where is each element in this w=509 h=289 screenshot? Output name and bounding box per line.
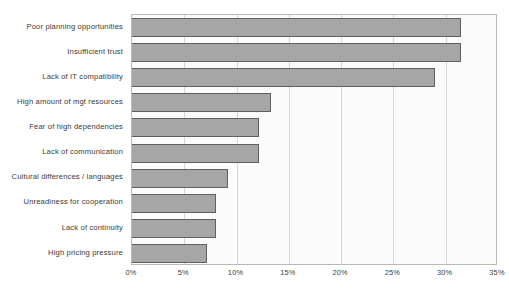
category-label: Lack of IT compatibility bbox=[42, 73, 123, 81]
category-label-row: High amount of mgt resources bbox=[0, 89, 128, 114]
bar bbox=[131, 43, 461, 62]
bar-slot bbox=[132, 216, 496, 241]
category-label: Lack of communication bbox=[42, 148, 123, 156]
category-label-row: Unreadiness for cooperation bbox=[0, 190, 128, 215]
category-label-row: Lack of communication bbox=[0, 139, 128, 164]
category-label: High pricing pressure bbox=[48, 249, 123, 257]
x-tick-label: 15% bbox=[280, 268, 295, 277]
bar-slot bbox=[132, 65, 496, 90]
category-label: Fear of high dependencies bbox=[29, 123, 123, 131]
bar bbox=[131, 118, 259, 137]
bar-slot bbox=[132, 40, 496, 65]
x-tick-label: 20% bbox=[332, 268, 347, 277]
x-tick-label: 35% bbox=[489, 268, 504, 277]
bar bbox=[131, 194, 216, 213]
bar-slot bbox=[132, 241, 496, 265]
bar bbox=[131, 244, 207, 263]
category-label: Lack of continuity bbox=[62, 224, 123, 232]
bar-slot bbox=[132, 90, 496, 115]
x-axis-tick-labels: 0%5%10%15%20%25%30%35% bbox=[131, 268, 497, 286]
category-label-row: Cultural differences / languages bbox=[0, 165, 128, 190]
bar-slot bbox=[132, 166, 496, 191]
x-tick-label: 0% bbox=[125, 268, 136, 277]
category-label-row: High pricing pressure bbox=[0, 240, 128, 265]
category-label-row: Lack of IT compatibility bbox=[0, 64, 128, 89]
category-axis-labels: Poor planning opportunitiesInsufficient … bbox=[0, 14, 128, 265]
category-label: High amount of mgt resources bbox=[17, 98, 123, 106]
category-label: Insufficient trust bbox=[67, 48, 123, 56]
bar-slot bbox=[132, 191, 496, 216]
category-label-row: Poor planning opportunities bbox=[0, 14, 128, 39]
category-label: Unreadiness for cooperation bbox=[24, 198, 123, 206]
category-label: Cultural differences / languages bbox=[12, 173, 123, 181]
bar-slot bbox=[132, 140, 496, 165]
x-tick-label: 30% bbox=[437, 268, 452, 277]
bar bbox=[131, 169, 228, 188]
bar-series bbox=[132, 15, 496, 264]
plot-area bbox=[131, 14, 497, 265]
category-label-row: Insufficient trust bbox=[0, 39, 128, 64]
category-label: Poor planning opportunities bbox=[26, 23, 123, 31]
category-label-row: Fear of high dependencies bbox=[0, 114, 128, 139]
bar-slot bbox=[132, 15, 496, 40]
bar bbox=[131, 18, 461, 37]
bar-chart: Poor planning opportunitiesInsufficient … bbox=[0, 0, 509, 289]
x-tick-label: 5% bbox=[178, 268, 189, 277]
x-tick-label: 10% bbox=[228, 268, 243, 277]
x-tick-label: 25% bbox=[385, 268, 400, 277]
bar bbox=[131, 219, 216, 238]
bar bbox=[131, 68, 435, 87]
bar bbox=[131, 93, 271, 112]
bar-slot bbox=[132, 115, 496, 140]
bar bbox=[131, 144, 259, 163]
category-label-row: Lack of continuity bbox=[0, 215, 128, 240]
